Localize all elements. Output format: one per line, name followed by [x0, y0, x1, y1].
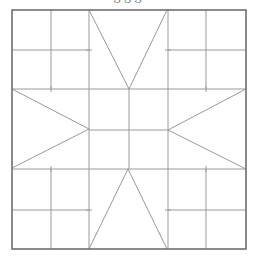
corner-block-bottom-left [12, 169, 89, 249]
corner-block-bottom-right [168, 169, 246, 249]
star-point-bottom [89, 169, 167, 249]
star-point-right [168, 89, 246, 169]
center-block [89, 89, 168, 169]
corner-block-top-left [12, 10, 89, 89]
star-point-left [12, 89, 89, 168]
quilt-star-diagram [0, 0, 255, 256]
star-point-top [89, 10, 167, 89]
corner-block-top-right [168, 10, 246, 89]
